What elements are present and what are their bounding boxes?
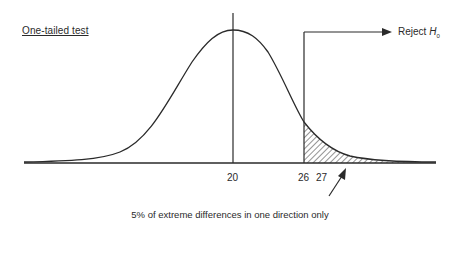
tick-label-27: 27 — [316, 172, 327, 183]
pointer-arrow-shaft — [329, 176, 342, 196]
reject-h0-label: Reject H0 — [398, 26, 440, 39]
normal-curve — [24, 30, 436, 162]
reject-arrow-head-icon — [382, 28, 392, 36]
normal-curve-diagram — [0, 0, 460, 264]
caption: 5% of extreme differences in one directi… — [0, 209, 460, 220]
tick-label-20: 20 — [227, 172, 238, 183]
rejection-region-hatch — [304, 122, 412, 163]
pointer-arrow-head-icon — [338, 168, 346, 180]
tick-label-26: 26 — [298, 172, 309, 183]
